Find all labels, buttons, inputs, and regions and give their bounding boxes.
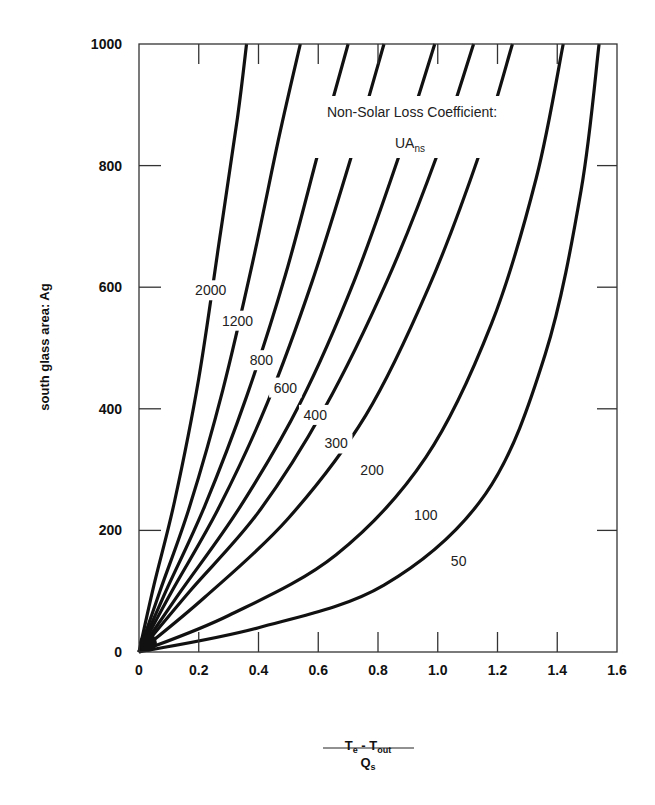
y-tick-label: 600	[99, 279, 123, 295]
x-tick-label: 0.8	[368, 662, 388, 678]
curve-labels: 2000120080060040030020010050	[190, 280, 471, 571]
x-axis-denominator: Qs	[360, 755, 375, 772]
curve-label-300: 300	[324, 435, 348, 451]
chart: 00.20.40.60.81.01.21.41.6 02004006008001…	[0, 0, 655, 805]
x-axis-title: Te - Tout Qs	[323, 738, 414, 772]
x-tick-label: 1.0	[428, 662, 448, 678]
x-tick-label: 0.6	[309, 662, 329, 678]
curve-label-400: 400	[304, 407, 328, 423]
x-axis-numerator: Te - Tout	[345, 738, 391, 755]
x-tick-label: 1.2	[488, 662, 508, 678]
legend-title: Non-Solar Loss Coefficient:	[327, 104, 497, 120]
y-tick-label: 800	[99, 158, 123, 174]
y-axis-title: south glass area: Ag	[37, 283, 52, 410]
curve-label-1200: 1200	[222, 313, 253, 329]
legend: Non-Solar Loss Coefficient: UAns	[308, 96, 526, 158]
origin-convergence	[139, 634, 157, 652]
curve-label-800: 800	[250, 352, 274, 368]
x-tick-label: 1.4	[548, 662, 568, 678]
curve-label-2000: 2000	[195, 282, 226, 298]
x-tick-label: 0.2	[189, 662, 209, 678]
curve-label-200: 200	[360, 462, 384, 478]
curve-ua-1200	[139, 44, 300, 652]
curve-label-600: 600	[274, 380, 298, 396]
y-tick-label: 400	[99, 401, 123, 417]
y-tick-label: 0	[114, 644, 122, 660]
curve-ua-2000	[139, 44, 247, 652]
curve-label-100: 100	[414, 507, 438, 523]
x-tick-label: 0.4	[249, 662, 269, 678]
y-tick-label: 1000	[91, 36, 122, 52]
y-axis-label: south glass area: Ag	[37, 283, 52, 410]
x-tick-label: 1.6	[607, 662, 627, 678]
y-tick-label: 200	[99, 522, 123, 538]
curve-label-50: 50	[451, 553, 467, 569]
x-tick-label: 0	[135, 662, 143, 678]
